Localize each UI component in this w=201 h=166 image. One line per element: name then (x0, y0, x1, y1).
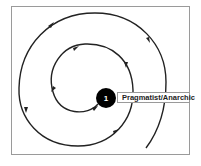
node-number: 1 (104, 94, 109, 103)
arrow-icon (24, 107, 28, 113)
arrow-icon (146, 37, 150, 43)
spiral-diagram: 1 (0, 0, 201, 166)
arrow-icon (113, 129, 119, 134)
spiral-line (19, 13, 166, 148)
node-label: Pragmatist/Anarchic (117, 92, 190, 103)
